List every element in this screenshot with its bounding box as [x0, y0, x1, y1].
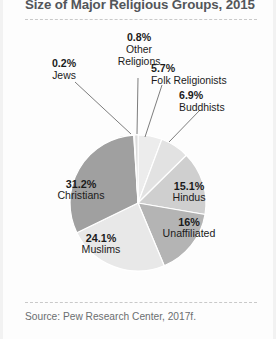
label-christians: 31.2% Christians — [38, 178, 124, 202]
source-caption: Source: Pew Research Center, 2017f. — [25, 311, 196, 322]
label-buddhists-percent: 6.9% — [179, 90, 271, 102]
label-folk-religionists-percent: 5.7% — [151, 63, 259, 75]
label-unaffiliated: 16% Unaffiliated — [145, 216, 233, 240]
label-jews-percent: 0.2% — [36, 58, 92, 70]
label-buddhists: 6.9% Buddhists — [179, 90, 271, 114]
label-folk-religionists-name: Folk Religionists — [151, 75, 259, 87]
label-buddhists-name: Buddhists — [179, 102, 271, 114]
label-hindus-name: Hindus — [155, 192, 223, 204]
label-other-religions-percent: 0.8% — [108, 32, 170, 44]
chart-card: Size of Major Religious Groups, 2015 — [0, 0, 276, 339]
label-christians-name: Christians — [38, 190, 124, 202]
label-jews-name: Jews — [36, 70, 92, 82]
label-muslims: 24.1% Muslims — [61, 232, 141, 256]
leader-line-jews — [75, 82, 131, 134]
leader-line-buddhists — [169, 110, 200, 142]
label-unaffiliated-name: Unaffiliated — [145, 228, 233, 240]
label-folk-religionists: 5.7% Folk Religionists — [151, 63, 259, 87]
divider-bottom — [25, 302, 257, 303]
label-other-religions-name-line1: Other — [108, 44, 170, 56]
leader-line-folk-religionists — [145, 85, 162, 137]
leader-line-other-religions — [137, 78, 138, 134]
label-jews: 0.2% Jews — [36, 58, 92, 82]
label-muslims-name: Muslims — [61, 244, 141, 256]
label-hindus: 15.1% Hindus — [155, 180, 223, 204]
